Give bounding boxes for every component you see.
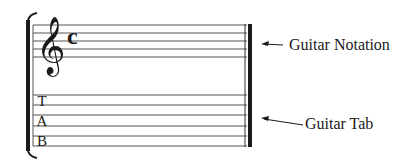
- tab-letter-t: T: [37, 93, 46, 109]
- common-time-signature: c: [67, 23, 78, 49]
- tab-letter-a: A: [37, 113, 48, 129]
- tab-letter-b: B: [37, 133, 47, 149]
- guitar-tab-label: Guitar Tab: [305, 115, 373, 132]
- guitar-notation-label: Guitar Notation: [289, 36, 390, 53]
- notation-arrow-icon: [261, 41, 283, 46]
- treble-clef-icon: 𝄞: [36, 17, 66, 77]
- tab-arrow-icon: [261, 116, 303, 125]
- final-barline: [245, 24, 252, 147]
- guitar-staff-diagram: 𝄞 c T A B Guitar Notation Guitar Tab: [0, 0, 417, 166]
- tab-staff: [33, 95, 247, 146]
